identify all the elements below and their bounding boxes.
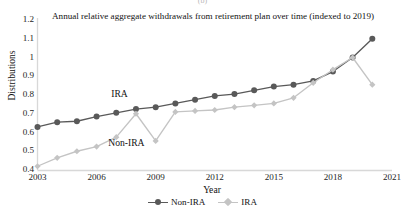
- data-point-marker: [192, 108, 198, 114]
- legend-entry-non-ira[interactable]: Non-IRA: [148, 197, 205, 207]
- plot-area: [0, 0, 405, 212]
- data-point-marker: [231, 104, 237, 110]
- data-point-marker: [251, 87, 257, 93]
- data-point-marker: [369, 36, 375, 42]
- legend-swatch: [148, 198, 168, 207]
- series-annotation-upper: IRA: [111, 88, 128, 99]
- data-point-marker: [251, 102, 257, 108]
- series-line: [38, 58, 373, 167]
- data-point-marker: [172, 100, 178, 106]
- chart-legend: Non-IRAIRA: [0, 197, 405, 207]
- series-line: [38, 39, 373, 127]
- legend-label: Non-IRA: [171, 197, 205, 207]
- diamond-marker-icon: [224, 198, 232, 206]
- series-ira: [34, 54, 375, 169]
- data-point-marker: [192, 97, 198, 103]
- data-point-marker: [231, 91, 237, 97]
- series-layer: [34, 36, 375, 170]
- data-point-marker: [93, 143, 99, 149]
- data-point-marker: [291, 82, 297, 88]
- data-point-marker: [54, 119, 60, 125]
- data-point-marker: [212, 107, 218, 113]
- figure-panel: (b) Annual relative aggregate withdrawal…: [0, 0, 405, 212]
- data-point-marker: [74, 148, 80, 154]
- data-point-marker: [35, 124, 41, 130]
- legend-label: IRA: [241, 197, 257, 207]
- data-point-marker: [74, 118, 80, 124]
- data-point-marker: [271, 100, 277, 106]
- legend-entry-ira[interactable]: IRA: [218, 197, 257, 207]
- data-point-marker: [113, 110, 119, 116]
- series-annotation-lower: Non-IRA: [108, 137, 144, 148]
- circle-marker-icon: [155, 199, 161, 205]
- legend-swatch: [218, 198, 238, 207]
- data-point-marker: [212, 93, 218, 99]
- data-point-marker: [54, 155, 60, 161]
- data-point-marker: [94, 114, 100, 120]
- data-point-marker: [271, 84, 277, 90]
- series-non-ira: [35, 36, 376, 130]
- data-point-marker: [34, 163, 40, 169]
- data-point-marker: [153, 104, 159, 110]
